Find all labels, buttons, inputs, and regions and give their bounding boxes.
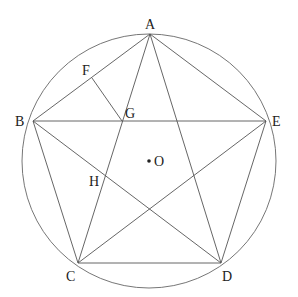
diagonal-AD [150, 34, 221, 263]
diagonal-BD [33, 121, 221, 263]
side-EA [150, 34, 266, 121]
segment-FG [92, 78, 122, 121]
label-O: O [154, 154, 164, 169]
diagonal-CE [78, 121, 266, 263]
label-F: F [82, 63, 90, 78]
label-B: B [15, 114, 24, 129]
side-BC [33, 121, 78, 263]
label-E: E [272, 114, 281, 129]
label-H: H [89, 174, 99, 189]
label-G: G [125, 106, 135, 121]
pentagon-diagram: A B C D E F G H O [0, 0, 298, 297]
label-A: A [145, 17, 156, 32]
label-C: C [66, 269, 75, 284]
center-point-O [147, 159, 151, 163]
side-DE [221, 121, 266, 263]
label-D: D [222, 269, 232, 284]
